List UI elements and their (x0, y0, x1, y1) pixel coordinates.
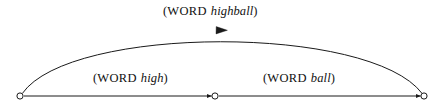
node-end (421, 93, 427, 99)
edge-label-highball: (WORDhighball) (163, 5, 258, 18)
word-lattice-figure: (WORDhighball) (WORDhigh) (WORDball) (0, 0, 439, 105)
label-category-ball: WORD (267, 71, 307, 85)
edge-arc-highball-arrowhead (216, 27, 227, 34)
label-category-highball: WORD (167, 4, 207, 18)
label-close-paren-ball: ) (331, 71, 335, 85)
edge-label-high: (WORDhigh) (93, 72, 168, 85)
label-word-ball: ball (311, 71, 331, 85)
node-start (17, 93, 23, 99)
label-word-highball: highball (211, 4, 253, 18)
node-middle (212, 93, 218, 99)
label-word-high: high (141, 71, 164, 85)
edge-label-ball: (WORDball) (263, 72, 335, 85)
edge-arc-highball (22, 42, 422, 94)
label-close-paren-highball: ) (253, 4, 257, 18)
label-category-high: WORD (97, 71, 137, 85)
label-close-paren-high: ) (163, 71, 167, 85)
